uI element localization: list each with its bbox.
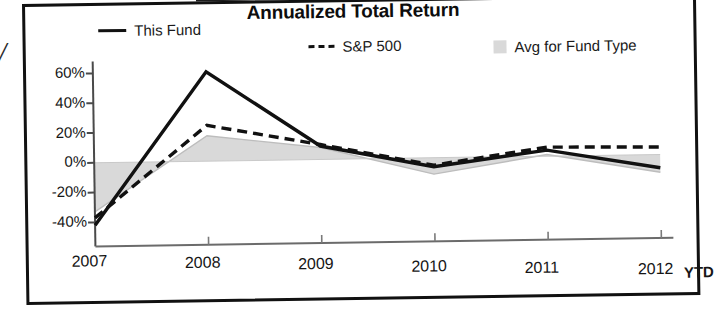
chart-plot — [0, 0, 698, 311]
avg-fund-type-area — [94, 129, 661, 212]
chart-area: Annualized Total Return This Fund S&P 50… — [0, 0, 698, 311]
series-line-this-fund — [93, 65, 661, 225]
series-line-s-p-500 — [94, 119, 661, 218]
x-axis-line — [95, 238, 673, 247]
y-axis-line — [93, 61, 96, 246]
avg-fund-type-line — [94, 129, 661, 212]
